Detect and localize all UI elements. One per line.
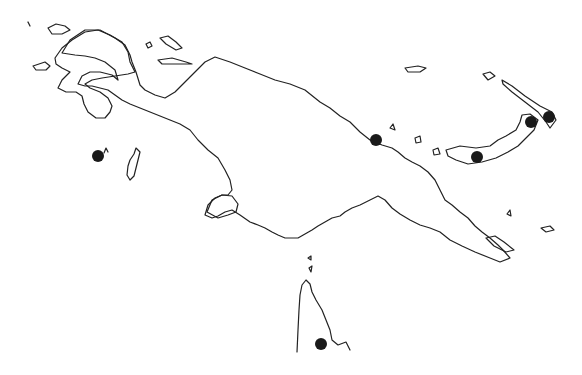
marker-dot[interactable] xyxy=(471,151,483,163)
marker-dot[interactable] xyxy=(92,150,104,162)
marker-layer xyxy=(0,0,582,375)
marker-dot[interactable] xyxy=(525,116,537,128)
marker-dot[interactable] xyxy=(543,111,555,123)
map-canvas xyxy=(0,0,582,375)
marker-dot[interactable] xyxy=(315,338,327,350)
marker-dot[interactable] xyxy=(370,134,382,146)
